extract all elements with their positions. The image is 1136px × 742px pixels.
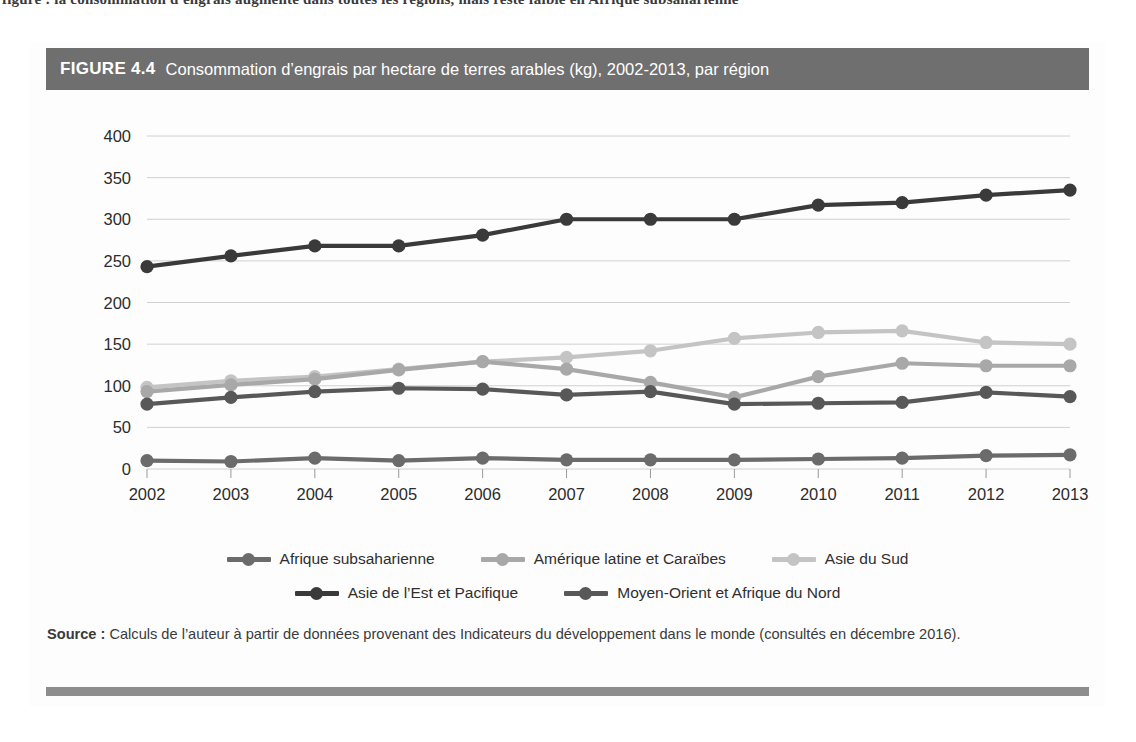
series-point <box>560 388 573 401</box>
legend-row: Asie de l’Est et PacifiqueMoyen-Orient e… <box>30 576 1105 610</box>
series-point <box>728 332 741 345</box>
series-point <box>812 452 825 465</box>
series-point <box>560 213 573 226</box>
series-point <box>560 351 573 364</box>
series-point <box>224 378 237 391</box>
footer-rule <box>46 687 1089 696</box>
series-point <box>1063 448 1076 461</box>
series-point <box>560 363 573 376</box>
series-point <box>896 452 909 465</box>
series-point <box>476 452 489 465</box>
legend-marker-icon <box>295 586 339 600</box>
series-point <box>979 386 992 399</box>
series-point <box>140 454 153 467</box>
series-point <box>644 453 657 466</box>
y-axis-tick-label: 300 <box>103 210 131 228</box>
series-point <box>392 382 405 395</box>
legend-item[interactable]: Amérique latine et Caraïbes <box>481 550 726 568</box>
plot-area: 0501001502002503003504002002200320042005… <box>30 108 1105 578</box>
source-label: Source : <box>47 626 105 642</box>
x-axis-tick-label: 2002 <box>129 485 166 503</box>
series-point <box>392 454 405 467</box>
series-point <box>728 397 741 410</box>
x-axis-tick-label: 2013 <box>1052 485 1089 503</box>
series-line <box>147 331 1070 388</box>
series-point <box>812 326 825 339</box>
x-axis-tick-label: 2009 <box>716 485 753 503</box>
legend-item[interactable]: Afrique subsaharienne <box>227 550 435 568</box>
series-point <box>812 397 825 410</box>
figure-title: Consommation d’engrais par hectare de te… <box>156 60 770 79</box>
y-axis-tick-label: 50 <box>113 418 131 436</box>
series-point <box>979 189 992 202</box>
series-point <box>896 396 909 409</box>
legend-label: Asie du Sud <box>825 550 909 568</box>
figure-page: figure : la consommation d'engrais augme… <box>0 0 1136 742</box>
series-point <box>392 239 405 252</box>
series-point <box>644 213 657 226</box>
series-point <box>979 359 992 372</box>
series-point <box>812 199 825 212</box>
x-axis-tick-label: 2005 <box>380 485 417 503</box>
y-axis-tick-label: 250 <box>103 252 131 270</box>
series-point <box>140 260 153 273</box>
y-axis-tick-label: 100 <box>103 377 131 395</box>
figure-number: FIGURE 4.4 <box>46 59 156 79</box>
series-point <box>979 449 992 462</box>
x-axis-tick-label: 2008 <box>632 485 669 503</box>
x-axis-tick-label: 2004 <box>296 485 333 503</box>
x-axis-tick-label: 2011 <box>884 485 919 503</box>
legend-label: Amérique latine et Caraïbes <box>534 550 726 568</box>
series-point <box>728 213 741 226</box>
legend-marker-icon <box>564 586 608 600</box>
series-point <box>476 228 489 241</box>
series-point <box>308 239 321 252</box>
series-point <box>1063 184 1076 197</box>
series-point <box>644 385 657 398</box>
top-bleed-text: figure : la consommation d'engrais augme… <box>0 0 1136 18</box>
series-point <box>392 363 405 376</box>
x-axis-tick-label: 2006 <box>464 485 501 503</box>
legend-item[interactable]: Asie du Sud <box>772 550 909 568</box>
y-axis-tick-label: 200 <box>103 294 131 312</box>
y-axis-tick-label: 400 <box>103 127 131 145</box>
series-point <box>476 355 489 368</box>
legend-marker-icon <box>772 552 816 566</box>
top-bleed-label: figure : la consommation d'engrais augme… <box>0 0 1136 8</box>
x-axis-tick-label: 2007 <box>548 485 585 503</box>
legend-label: Afrique subsaharienne <box>280 550 435 568</box>
source-text: Calculs de l’auteur à partir de données … <box>105 626 960 642</box>
legend-row: Afrique subsaharienneAmérique latine et … <box>30 542 1105 576</box>
series-point <box>1063 338 1076 351</box>
legend-marker-icon <box>227 552 271 566</box>
legend-item[interactable]: Moyen-Orient et Afrique du Nord <box>564 584 840 602</box>
legend-label: Moyen-Orient et Afrique du Nord <box>617 584 840 602</box>
series-point <box>560 453 573 466</box>
series-point <box>224 249 237 262</box>
series-point <box>896 324 909 337</box>
source-note: Source : Calculs de l’auteur à partir de… <box>47 624 1082 645</box>
series-point <box>979 336 992 349</box>
y-axis-tick-label: 0 <box>122 460 131 478</box>
series-point <box>896 357 909 370</box>
series-point <box>308 385 321 398</box>
figure-header: FIGURE 4.4 Consommation d’engrais par he… <box>46 48 1089 90</box>
series-point <box>1063 390 1076 403</box>
y-axis-tick-label: 150 <box>103 335 131 353</box>
figure-container: FIGURE 4.4 Consommation d’engrais par he… <box>30 42 1105 707</box>
series-point <box>308 452 321 465</box>
x-axis-tick-label: 2012 <box>968 485 1005 503</box>
legend-item[interactable]: Asie de l’Est et Pacifique <box>295 584 519 602</box>
series-point <box>224 391 237 404</box>
series-line <box>147 455 1070 462</box>
series-point <box>644 344 657 357</box>
series-point <box>224 455 237 468</box>
series-point <box>140 385 153 398</box>
series-point <box>812 370 825 383</box>
series-point <box>308 372 321 385</box>
series-point <box>140 397 153 410</box>
series-point <box>1063 359 1076 372</box>
legend-marker-icon <box>481 552 525 566</box>
series-point <box>896 196 909 209</box>
line-chart: 0501001502002503003504002002200320042005… <box>30 108 1105 578</box>
